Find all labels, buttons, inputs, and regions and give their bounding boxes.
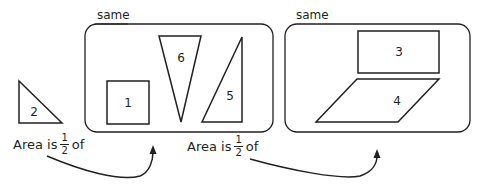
triangle-2-shape (19, 81, 62, 123)
caption-2: Area is 1 2 of (187, 135, 258, 158)
shape-label-1: 1 (124, 97, 132, 109)
group-box-2 (285, 24, 470, 132)
arrow-2-path (250, 156, 377, 177)
caption-1-suffix: of (72, 138, 85, 151)
caption-1: Area is 1 2 of (13, 133, 84, 156)
group-label-1: same (97, 9, 130, 21)
shape-label-2: 2 (30, 106, 38, 118)
caption-1-denominator: 2 (61, 145, 67, 156)
caption-1-numerator: 1 (60, 133, 68, 145)
caption-2-prefix: Area is (187, 140, 231, 153)
triangle-6-shape (159, 36, 201, 122)
caption-1-fraction: 1 2 (60, 133, 68, 156)
arrow-1-head-icon (150, 145, 157, 154)
caption-2-denominator: 2 (235, 147, 241, 158)
shape-label-4: 4 (393, 95, 401, 107)
shape-label-6: 6 (177, 52, 185, 64)
caption-2-numerator: 1 (234, 135, 242, 147)
caption-1-prefix: Area is (13, 138, 57, 151)
diagram-canvas (0, 0, 481, 186)
shape-label-5: 5 (226, 90, 234, 102)
parallelogram-4-shape (316, 79, 439, 122)
group-label-2: same (296, 9, 329, 21)
arrow-2-head-icon (374, 149, 381, 158)
caption-2-fraction: 1 2 (234, 135, 242, 158)
shape-label-3: 3 (395, 46, 403, 58)
triangle-5-shape (202, 37, 242, 122)
caption-2-suffix: of (246, 140, 259, 153)
